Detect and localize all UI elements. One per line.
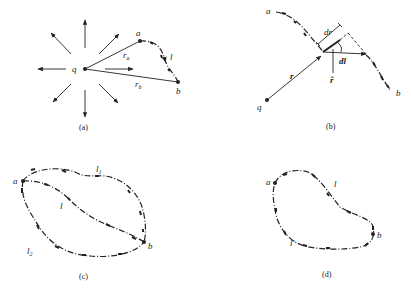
path-a-to-dl [276,12,323,52]
caption-a: (a) [79,123,88,132]
radius-a-line [85,41,140,69]
path-l2-label: l2 [27,246,33,257]
closed-path [273,170,373,249]
path-dl-to-b [366,55,390,90]
point-b-label: b [176,86,181,96]
position-vector-label: r [290,71,294,81]
path-l1-label: l1 [96,164,102,175]
panel-b: q r dl dr r̂ a b (b) [257,6,401,131]
point-b-label: b [396,88,401,98]
point-a-dot [138,39,142,43]
radius-a-label: ra [123,50,130,61]
point-a-label: a [266,177,271,187]
point-a-dot [273,181,277,185]
point-a-label: a [136,28,141,38]
path-l-label: l [334,179,337,189]
dr-label: dr [324,27,333,37]
point-b-dot [176,80,180,84]
point-a-label: a [13,176,18,186]
point-a-label: a [266,6,271,16]
path-l [23,181,144,242]
projection-dashed-line [348,33,366,54]
path-l-label: l [60,201,63,211]
path-lprime-label: l′ [290,238,296,248]
charge-q-label: q [72,64,77,74]
path-direction-marks [22,169,143,255]
dl-label: dl [339,56,347,66]
panel-a: q a b l ra rb (a) [38,20,181,132]
position-vector-r [267,56,321,100]
path-l1 [23,169,146,242]
path-l-label: l [170,52,173,62]
path-l2 [22,181,144,256]
panel-d: a b l l′ (d) [266,170,382,279]
path-direction-marks [282,13,389,88]
dl-vector [323,52,366,54]
radius-b-line [85,69,178,82]
caption-c: (c) [79,272,88,281]
charge-q-label: q [257,102,262,112]
electrostatic-path-diagram: q a b l ra rb (a) q r dl dr r̂ a b [0,0,411,289]
point-b-dot [371,232,375,236]
point-b-label: b [148,241,153,251]
point-b-dot [142,240,146,244]
point-b-label: b [377,230,382,240]
path-direction-marks [276,174,373,248]
unit-r-hat-arrow [323,40,340,52]
angle-arc [338,43,341,52]
unit-vector-label: r̂ [330,75,335,85]
caption-d: (d) [322,270,332,279]
point-a-dot [21,179,25,183]
r-hat-extension [340,33,348,40]
path-direction-marks [150,42,170,71]
radius-b-label: rb [135,79,142,90]
panel-c: a b l1 l l2 (c) [13,164,153,281]
caption-b: (b) [326,122,336,131]
